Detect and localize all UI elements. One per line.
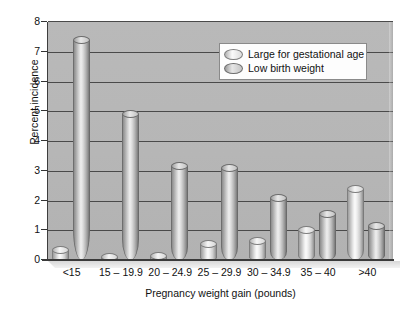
bar <box>298 226 315 260</box>
x-axis-title: Pregnancy weight gain (pounds) <box>48 287 393 299</box>
bar-body <box>73 40 90 260</box>
bar <box>347 185 364 260</box>
bar-body <box>298 230 315 260</box>
x-axis-tick-label: 15 – 19.9 <box>99 266 143 278</box>
bar <box>52 246 69 260</box>
gridline <box>48 111 393 112</box>
x-axis-line <box>42 259 394 261</box>
bar-body <box>347 189 364 260</box>
bar-body <box>171 166 188 260</box>
legend-item: Low birth weight <box>224 61 362 75</box>
x-axis-tick-label: <15 <box>63 266 81 278</box>
bar <box>368 222 385 260</box>
x-axis-tick-label: 35 – 40 <box>301 266 336 278</box>
y-axis-tick-label: 5 <box>24 105 40 116</box>
bar-top-ellipse <box>368 222 385 230</box>
legend-label: Large for gestational age <box>248 49 364 60</box>
bar-body <box>270 198 287 260</box>
bar-top-ellipse <box>221 164 238 172</box>
y-axis-tick-label: 2 <box>24 195 40 206</box>
y-axis-tick-label: 0 <box>24 254 40 265</box>
y-axis-tick-label: 7 <box>24 46 40 57</box>
bar-top-ellipse <box>319 210 336 218</box>
x-axis-tick-label: 20 – 24.9 <box>148 266 192 278</box>
gridline <box>48 82 393 83</box>
bar-top-ellipse <box>52 246 69 254</box>
legend: Large for gestational age Low birth weig… <box>219 43 367 80</box>
chart-figure: Percent incidence 012345678 <1515 – 19.9… <box>0 0 408 310</box>
bar <box>249 237 266 260</box>
legend-label: Low birth weight <box>248 63 324 74</box>
bar-top-ellipse <box>249 237 266 245</box>
bar <box>122 110 139 260</box>
x-axis-tick-label: 30 – 34.9 <box>247 266 291 278</box>
bar <box>73 36 90 260</box>
legend-item: Large for gestational age <box>224 47 362 61</box>
y-axis-tick-label: 4 <box>24 135 40 146</box>
bar <box>270 194 287 260</box>
legend-swatch-icon <box>224 49 243 60</box>
bar <box>221 164 238 260</box>
bar-body <box>122 114 139 260</box>
bar <box>319 210 336 260</box>
gridline <box>48 141 393 142</box>
bar <box>200 240 217 260</box>
bar-top-ellipse <box>347 185 364 193</box>
y-axis-tick-label: 8 <box>24 16 40 27</box>
y-axis-tick-label: 1 <box>24 224 40 235</box>
bar-top-ellipse <box>270 194 287 202</box>
bar-body <box>319 214 336 260</box>
y-axis-tick-label: 3 <box>24 165 40 176</box>
x-axis-tick-label: >40 <box>358 266 376 278</box>
bar-top-ellipse <box>73 36 90 44</box>
legend-swatch-icon <box>224 63 243 74</box>
bar-body <box>368 226 385 260</box>
bar <box>171 162 188 260</box>
y-axis-tick-label: 6 <box>24 76 40 87</box>
bar-top-ellipse <box>200 240 217 248</box>
bar-body <box>221 168 238 260</box>
x-axis-tick-label: 25 – 29.9 <box>198 266 242 278</box>
